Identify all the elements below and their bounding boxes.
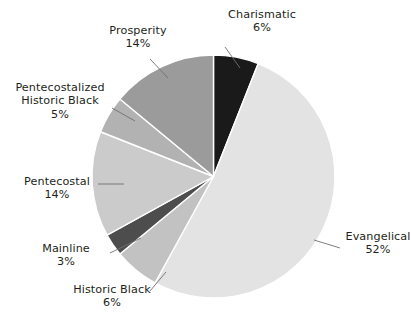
pie-label-evangelical-name: Evangelical [338,230,411,243]
pie-label-pentecostalized-historic-black-line2: Historic Black [4,94,116,107]
pie-label-charismatic-value: 6% [208,21,316,34]
pie-chart-graphic [0,0,411,323]
pie-label-mainline: Mainline 3% [30,242,102,269]
pie-label-historic-black-value: 6% [62,296,162,309]
pie-chart: Charismatic 6% Prosperity 14% Pentecosta… [0,0,411,323]
pie-label-charismatic-name: Charismatic [208,8,316,21]
pie-label-prosperity-name: Prosperity [92,24,184,37]
pie-label-pentecostal-name: Pentecostal [8,175,106,188]
leader-line-evangelical [314,240,340,248]
pie-label-prosperity-value: 14% [92,37,184,50]
pie-label-historic-black-name: Historic Black [62,283,162,296]
pie-label-charismatic: Charismatic 6% [208,8,316,35]
pie-label-pentecostalized-historic-black-line1: Pentecostalized [4,81,116,94]
pie-label-historic-black: Historic Black 6% [62,283,162,310]
pie-label-pentecostal: Pentecostal 14% [8,175,106,202]
pie-slice-group [92,55,335,298]
pie-label-prosperity: Prosperity 14% [92,24,184,51]
pie-label-pentecostalized-historic-black: Pentecostalized Historic Black 5% [4,81,116,121]
pie-label-pentecostal-value: 14% [8,188,106,201]
pie-label-mainline-name: Mainline [30,242,102,255]
pie-label-mainline-value: 3% [30,255,102,268]
pie-label-evangelical: Evangelical 52% [338,230,411,257]
pie-label-pentecostalized-historic-black-value: 5% [4,108,116,121]
pie-label-evangelical-value: 52% [338,243,411,256]
